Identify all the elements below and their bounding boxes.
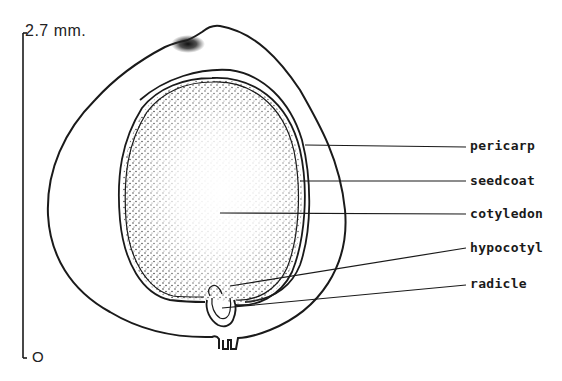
label-seedcoat: seedcoat	[470, 174, 535, 188]
label-hypocotyl: hypocotyl	[470, 241, 543, 255]
stylar-scar	[171, 35, 205, 53]
scale-top-label: 2.7 mm.	[25, 22, 86, 40]
seed-diagram: 2.7 mm. O pericarp seedcoat cotyledon hy…	[0, 0, 562, 381]
scale-bar	[23, 33, 27, 358]
label-radicle: radicle	[470, 277, 527, 291]
diagram-canvas	[0, 0, 562, 381]
seed-fade	[123, 80, 302, 303]
label-pericarp: pericarp	[470, 139, 535, 153]
scale-bottom-label: O	[32, 348, 44, 365]
label-cotyledon: cotyledon	[470, 207, 543, 221]
